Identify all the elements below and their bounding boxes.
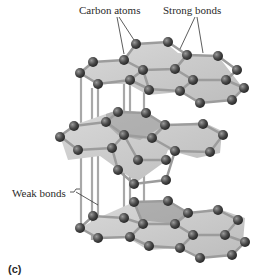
top-graphene-sheet [80,42,244,103]
carbon-atoms-label: Carbon atoms [79,5,140,16]
panel-label: (c) [8,264,21,275]
graphite-diagram [0,0,265,280]
strong-bonds-label: Strong bonds [163,5,221,16]
weak-bonds-label: Weak bonds [12,188,66,199]
middle-graphene-sheet [60,110,223,184]
